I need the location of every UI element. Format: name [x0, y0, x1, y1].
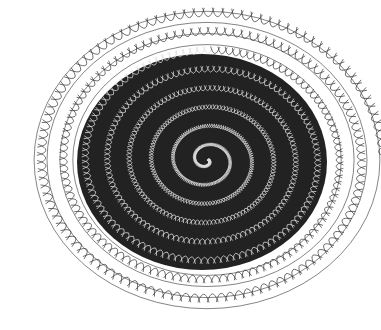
spiral-illustration	[0, 0, 381, 330]
